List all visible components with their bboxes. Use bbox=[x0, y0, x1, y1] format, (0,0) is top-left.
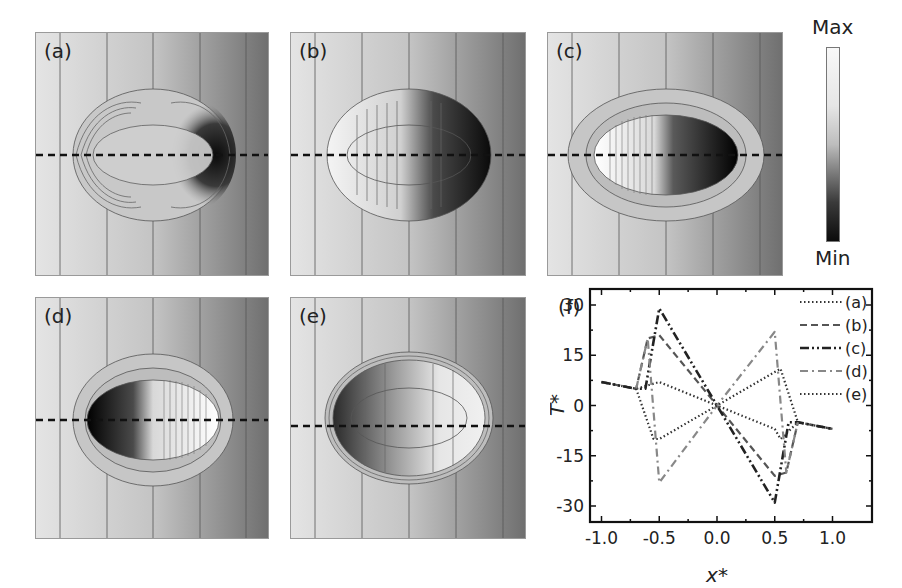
legend-label: (b) bbox=[845, 316, 868, 335]
colorbar-max-label: Max bbox=[812, 15, 853, 39]
legend-label: (a) bbox=[845, 293, 867, 312]
contour-plot-e bbox=[291, 298, 526, 539]
contour-plot-b bbox=[291, 33, 526, 276]
plot-frame bbox=[590, 289, 872, 522]
contour-plot-d bbox=[36, 298, 269, 539]
contour-panel-d: (d) bbox=[35, 297, 269, 539]
legend-label: (e) bbox=[845, 385, 867, 404]
y-tick-label: 15 bbox=[562, 345, 584, 365]
contour-panel-c: (c) bbox=[547, 32, 783, 276]
contour-panel-e: (e) bbox=[290, 297, 526, 539]
line-chart-panel-f: (f) -1.0-0.50.00.51.0-30-1501530(a)(b)(c… bbox=[550, 280, 902, 588]
x-tick-label: -0.5 bbox=[643, 528, 676, 548]
y-axis-label: T* bbox=[550, 394, 569, 416]
line-chart: (f) -1.0-0.50.00.51.0-30-1501530(a)(b)(c… bbox=[550, 280, 902, 588]
series-line-0 bbox=[602, 382, 833, 439]
contour-plot-a bbox=[36, 33, 269, 276]
panel-label-b: (b) bbox=[299, 39, 327, 63]
x-tick-label: -1.0 bbox=[585, 528, 618, 548]
panel-label-d: (d) bbox=[44, 304, 72, 328]
panel-label-c: (c) bbox=[556, 39, 583, 63]
x-tick-label: 1.0 bbox=[819, 528, 846, 548]
x-tick-label: 0.5 bbox=[761, 528, 788, 548]
y-tick-label: -15 bbox=[556, 446, 584, 466]
legend-label: (d) bbox=[845, 362, 868, 381]
contour-panel-b: (b) bbox=[290, 32, 526, 276]
y-tick-label: -30 bbox=[556, 496, 584, 516]
x-axis-label: x* bbox=[705, 563, 728, 587]
contour-panel-a: (a) bbox=[35, 32, 269, 276]
y-tick-label: 0 bbox=[573, 396, 584, 416]
panel-label-a: (a) bbox=[44, 39, 72, 63]
legend-label: (c) bbox=[845, 339, 866, 358]
contour-plot-c bbox=[548, 33, 783, 276]
colorbar bbox=[826, 47, 840, 242]
series-line-3 bbox=[636, 332, 798, 483]
panel-label-e: (e) bbox=[299, 304, 327, 328]
x-tick-label: 0.0 bbox=[703, 528, 730, 548]
colorbar-min-label: Min bbox=[815, 246, 851, 270]
y-tick-label: 30 bbox=[562, 295, 584, 315]
